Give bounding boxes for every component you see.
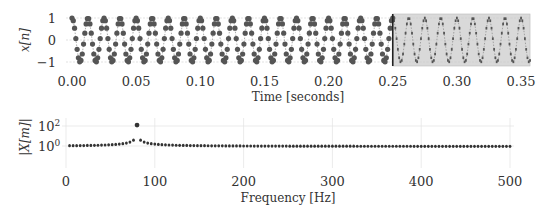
time-domain-plot: 0.000.050.100.150.200.250.300.35 10−1 Ti… — [18, 11, 536, 105]
y-tick-label: 100 — [38, 138, 61, 154]
y-tick-label: 102 — [38, 118, 60, 134]
x-tick-label: 0.25 — [378, 74, 407, 89]
x-tick-label: 500 — [498, 174, 523, 189]
top-x-axis-label: Time [seconds] — [252, 90, 344, 104]
x-tick-label: 0.15 — [250, 74, 279, 89]
top-y-ticks: 10−1 — [37, 11, 56, 70]
frequency-domain-plot: 0100200300400500 102100 Frequency [Hz] |… — [18, 118, 522, 206]
top-y-axis-label: x[n] — [18, 28, 32, 52]
bottom-y-axis-label: |X[m]| — [18, 118, 32, 155]
y-tick-label: −1 — [37, 55, 56, 70]
y-tick-label: 0 — [48, 33, 56, 48]
dft-magnitude-points — [68, 123, 511, 148]
x-tick-label: 0.10 — [186, 74, 215, 89]
bottom-x-ticks: 0100200300400500 — [62, 174, 523, 189]
x-tick-label: 0.20 — [314, 74, 343, 89]
x-tick-label: 0.35 — [507, 74, 536, 89]
top-x-ticks: 0.000.050.100.150.200.250.300.35 — [58, 74, 536, 89]
x-tick-label: 0.05 — [122, 74, 151, 89]
figure: 0.000.050.100.150.200.250.300.35 10−1 Ti… — [0, 0, 551, 212]
x-tick-label: 300 — [320, 174, 345, 189]
x-tick-label: 0.30 — [442, 74, 471, 89]
bottom-y-ticks: 102100 — [38, 118, 61, 154]
bottom-x-axis-label: Frequency [Hz] — [241, 191, 336, 205]
x-tick-label: 0 — [62, 174, 70, 189]
x-tick-label: 400 — [409, 174, 434, 189]
y-tick-label: 1 — [48, 11, 56, 26]
x-tick-label: 0.00 — [58, 74, 87, 89]
x-tick-label: 100 — [142, 174, 167, 189]
x-tick-label: 200 — [231, 174, 256, 189]
